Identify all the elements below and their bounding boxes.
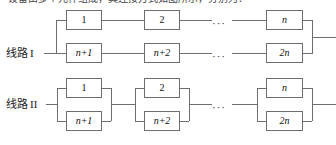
line-1-top-exit-lead [303, 20, 312, 21]
line-2-pair-1-bottom-box: n+1 [66, 111, 102, 131]
line-1-top-box-2: 2 [144, 10, 180, 30]
line-1-bottom-wire-2-dots [180, 53, 212, 54]
row-label-line-1-text: 线路 [6, 47, 28, 59]
line-2-pair-n-bottom-box: 2n [266, 111, 303, 131]
line-2-pair-1-top-entry [57, 88, 66, 89]
line-1-bottom-box-2n: 2n [266, 43, 303, 63]
line-1-top-box-2-label: 2 [160, 15, 165, 25]
row-label-line-2: 线路II [6, 98, 37, 111]
line-1-top-wire-dots-n [232, 20, 266, 21]
line-2-pair-2-top-label: 2 [160, 83, 165, 93]
line-1-input-split-bus [56, 20, 57, 54]
line-2-pair-n-top-entry [257, 88, 266, 89]
line-2-pair-n-top-box: n [266, 78, 303, 98]
line-2-input-lead [46, 104, 57, 105]
line-2-pair-2-left-bus [135, 88, 136, 121]
line-2-output-lead [312, 104, 336, 105]
line-2-pair-1-top-exit [102, 88, 111, 89]
line-2-pair-2-bottom-label: n+2 [154, 116, 171, 126]
line-1-bottom-wire-1-2 [102, 53, 144, 54]
caption-text: 设备由多个元件组成，其连接方式如图所示，分别为： [8, 0, 248, 5]
row-label-line-1-numeral: I [28, 47, 34, 59]
line-1-top-box-n: n [266, 10, 303, 30]
line-2-pair-2-top-box: 2 [144, 78, 180, 98]
line-2-pair-n-top-label: n [282, 83, 287, 93]
line-1-output-lead [312, 37, 336, 38]
line-2-pair-1-bottom-label: n+1 [76, 116, 93, 126]
line-1-top-box-1: 1 [66, 10, 102, 30]
line-2-wire-dots-pairn [232, 104, 257, 105]
line-2-pair-n-bottom-exit [303, 121, 312, 122]
line-2-pair-2-top-exit [180, 88, 189, 89]
line-2-pair-2-top-entry [135, 88, 144, 89]
line-1-bottom-entry-lead [56, 53, 66, 54]
line-2-pair-1-bottom-entry [57, 121, 66, 122]
line-2-pair-n-bottom-entry [257, 121, 266, 122]
line-1-top-box-1-label: 1 [82, 15, 87, 25]
line-1-top-box-n-label: n [282, 15, 287, 25]
line-2-pair-n-left-bus [257, 88, 258, 121]
line-2-pair-1-bottom-exit [102, 121, 111, 122]
line-1-bottom-box-n1-label: n+1 [76, 48, 93, 58]
line-1-bottom-exit-lead [303, 53, 312, 54]
circuit-reliability-figure: 设备由多个元件组成，其连接方式如图所示，分别为： 线路I 1 2 ··· n n… [0, 0, 336, 145]
line-2-pair-n-top-exit [303, 88, 312, 89]
line-1-top-ellipsis: ··· [212, 20, 226, 26]
row-label-line-1: 线路I [6, 47, 34, 60]
line-2-link-pair1-pair2 [111, 104, 135, 105]
row-label-line-2-text: 线路 [6, 98, 28, 110]
line-2-ellipsis: ··· [212, 104, 226, 110]
line-1-bottom-box-n2: n+2 [144, 43, 180, 63]
line-1-bottom-wire-dots-2n [232, 53, 266, 54]
line-1-bottom-box-2n-label: 2n [280, 48, 290, 58]
line-2-wire-pair2-dots [189, 104, 212, 105]
line-2-pair-2-bottom-exit [180, 121, 189, 122]
line-2-pair-2-bottom-box: n+2 [144, 111, 180, 131]
line-2-pair-1-left-bus [57, 88, 58, 121]
line-1-top-wire-1-2 [102, 20, 144, 21]
line-1-top-wire-2-dots [180, 20, 212, 21]
line-1-bottom-ellipsis: ··· [212, 53, 226, 59]
line-1-top-entry-lead [56, 20, 66, 21]
line-1-bottom-box-n2-label: n+2 [154, 48, 171, 58]
row-label-line-2-numeral: II [28, 98, 37, 110]
line-2-pair-1-top-box: 1 [66, 78, 102, 98]
line-2-pair-2-bottom-entry [135, 121, 144, 122]
cut-off-caption: 设备由多个元件组成，其连接方式如图所示，分别为： [0, 0, 336, 7]
line-1-bottom-box-n1: n+1 [66, 43, 102, 63]
line-2-pair-1-top-label: 1 [82, 83, 87, 93]
line-2-pair-n-bottom-label: 2n [280, 116, 290, 126]
